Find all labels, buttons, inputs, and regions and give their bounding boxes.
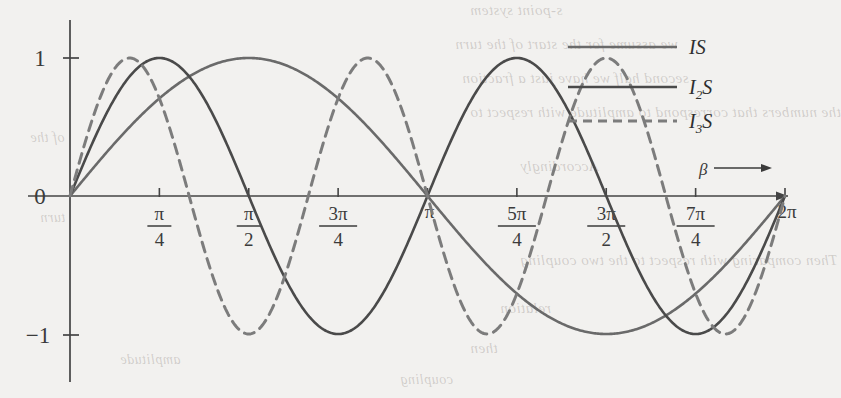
- x-tick-label-numerator: 3π: [329, 203, 349, 224]
- legend-label: I3S: [688, 110, 712, 136]
- x-tick-label-denominator: 4: [155, 229, 165, 250]
- y-tick-label-1: 1: [34, 46, 46, 71]
- x-tick-label-numerator: 5π: [507, 203, 527, 224]
- beta-arrow-icon: [761, 164, 772, 172]
- x-ticks-group: π4π23π4π5π43π27π42π: [147, 188, 797, 250]
- legend-label: I2S: [688, 76, 712, 102]
- x-tick-label-denominator: 2: [244, 229, 254, 250]
- axes-group: [28, 20, 788, 382]
- x-axis-label-group: β: [698, 160, 772, 179]
- legend-label-tail: S: [702, 76, 712, 98]
- y-tick-label-0: 0: [34, 184, 46, 209]
- x-tick-label-denominator: 4: [691, 229, 701, 250]
- legend-label-tail: S: [702, 110, 712, 132]
- y-tick-label-neg1: −1: [26, 323, 50, 348]
- x-tick-label-numerator: 7π: [686, 203, 706, 224]
- legend-label: IS: [688, 36, 706, 58]
- legend: ISI2SI3S: [568, 36, 712, 136]
- x-tick-label-denominator: 4: [333, 229, 343, 250]
- x-tick-label-denominator: 4: [512, 229, 522, 250]
- x-tick-label-numerator: π: [155, 203, 165, 224]
- x-axis-label: β: [698, 160, 708, 179]
- x-tick-label-denominator: 2: [602, 229, 612, 250]
